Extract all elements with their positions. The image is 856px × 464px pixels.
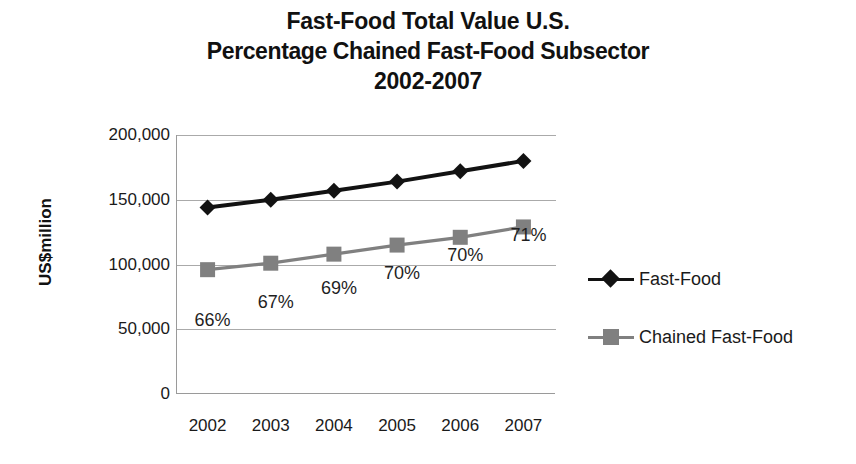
gridline (177, 329, 556, 330)
x-axis-tick-label: 2004 (301, 416, 367, 436)
data-point-label: 70% (384, 263, 420, 284)
legend-item-chained-fast-food[interactable]: Chained Fast-Food (588, 308, 850, 366)
chart-legend: Fast-FoodChained Fast-Food (588, 250, 850, 366)
x-axis-tick-label: 2006 (427, 416, 493, 436)
legend-square-icon (603, 329, 619, 345)
y-axis-title: US$million (36, 182, 56, 302)
data-point-label: 70% (447, 245, 483, 266)
data-point-label: 67% (258, 292, 294, 313)
x-axis-tick-label: 2007 (490, 416, 556, 436)
y-axis-tick-label: 0 (60, 384, 170, 404)
x-axis-tick-labels: 200220032004200520062007 (176, 416, 555, 442)
data-point-label: 71% (510, 225, 546, 246)
y-axis-tick-label: 50,000 (60, 319, 170, 339)
x-axis-tick-label: 2003 (238, 416, 304, 436)
plot-area (176, 135, 555, 394)
y-axis-tick-label: 150,000 (60, 190, 170, 210)
y-axis-tick-label: 100,000 (60, 255, 170, 275)
legend-swatch-icon (588, 327, 634, 347)
data-point-label: 69% (321, 278, 357, 299)
legend-label: Fast-Food (639, 269, 721, 290)
y-axis-tick-labels: 050,000100,000150,000200,000 (58, 135, 170, 394)
gridline (177, 200, 556, 201)
data-point-label: 66% (195, 310, 231, 331)
y-axis-tick-label: 200,000 (60, 125, 170, 145)
x-axis-tick-label: 2005 (364, 416, 430, 436)
gridline (177, 135, 556, 136)
chart-title-line-3: 2002-2007 (0, 66, 856, 96)
legend-diamond-icon (601, 269, 619, 287)
chart-title-line-2: Percentage Chained Fast-Food Subsector (0, 36, 856, 66)
legend-item-fast-food[interactable]: Fast-Food (588, 250, 850, 308)
legend-swatch-icon (588, 269, 634, 289)
legend-label: Chained Fast-Food (639, 327, 793, 348)
chart-title: Fast-Food Total Value U.S. Percentage Ch… (0, 6, 856, 96)
chart-title-line-1: Fast-Food Total Value U.S. (0, 6, 856, 36)
x-axis-tick-label: 2002 (175, 416, 241, 436)
gridline (177, 265, 556, 266)
